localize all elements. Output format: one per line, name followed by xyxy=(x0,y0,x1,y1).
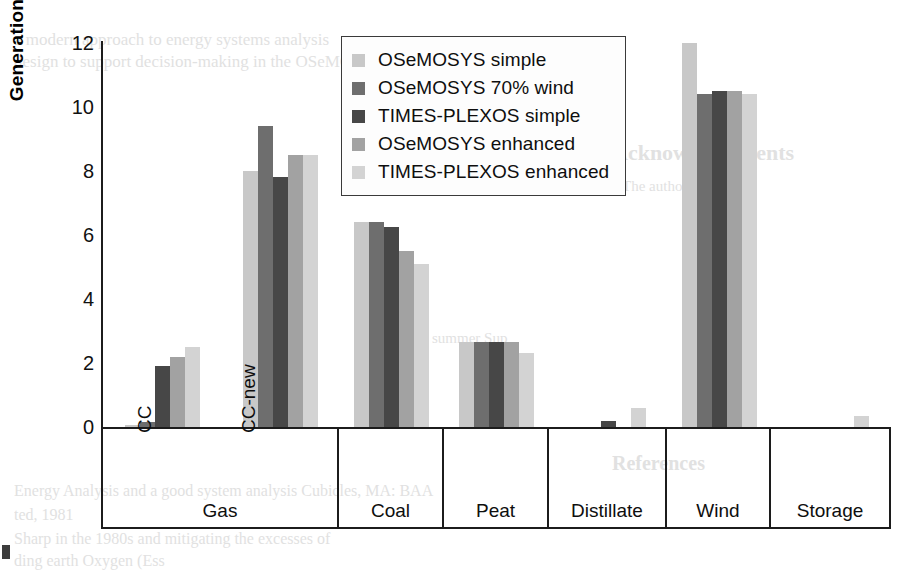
bar xyxy=(414,264,429,427)
y-tick-label: 10 xyxy=(48,97,94,117)
page-corner-mark xyxy=(2,545,10,559)
y-tick-label: 2 xyxy=(48,353,94,373)
x-group-label: Wind xyxy=(696,500,739,527)
x-group-label: Storage xyxy=(797,500,864,527)
bar-group xyxy=(771,43,891,427)
bar xyxy=(742,94,757,427)
y-axis-title: Generation (TWh) xyxy=(6,0,28,130)
x-group-label: Distillate xyxy=(571,500,643,527)
bar xyxy=(519,353,534,427)
y-tick-label: 4 xyxy=(48,289,94,309)
chart-legend: OSeMOSYS simpleOSeMOSYS 70% windTIMES-PL… xyxy=(341,36,626,196)
bar xyxy=(170,357,185,427)
bar xyxy=(601,421,616,427)
bar xyxy=(712,91,727,427)
bar xyxy=(504,342,519,427)
legend-swatch-icon xyxy=(352,54,365,67)
x-group-label: Peat xyxy=(476,500,515,527)
bar xyxy=(399,251,414,427)
legend-swatch-icon xyxy=(352,138,365,151)
bar xyxy=(369,222,384,427)
x-sublabel-cc-new: CC-new xyxy=(238,364,260,433)
bar xyxy=(631,408,646,427)
x-group-distillate: Distillate xyxy=(549,429,667,527)
y-tick-label: 6 xyxy=(48,225,94,245)
x-sublabel-cc: CC xyxy=(134,406,156,433)
x-axis-table: CC CC-new Gas Coal Peat Distillate Wind … xyxy=(101,429,891,529)
bar-group xyxy=(667,43,771,427)
bar-group xyxy=(103,43,221,427)
bar xyxy=(474,342,489,427)
y-tick-label: 0 xyxy=(48,417,94,437)
bar xyxy=(727,91,742,427)
bar xyxy=(697,94,712,427)
bar xyxy=(682,43,697,427)
y-tick-label: 8 xyxy=(48,161,94,181)
bar xyxy=(459,342,474,427)
legend-item: OSeMOSYS simple xyxy=(352,46,609,74)
x-group-wind: Wind xyxy=(667,429,771,527)
x-group-gas: CC CC-new Gas xyxy=(103,429,339,527)
legend-swatch-icon xyxy=(352,110,365,123)
legend-label: OSeMOSYS enhanced xyxy=(378,133,575,155)
bar xyxy=(273,177,288,427)
bar-chart: Generation (TWh) 12 10 8 6 4 2 0 OSeMOSY… xyxy=(0,0,900,578)
y-axis-ticks: 12 10 8 6 4 2 0 xyxy=(38,0,94,578)
x-group-label: Gas xyxy=(203,500,238,527)
bar xyxy=(354,222,369,427)
bar xyxy=(155,366,170,427)
x-group-coal: Coal xyxy=(339,429,444,527)
x-group-peat: Peat xyxy=(444,429,549,527)
legend-label: OSeMOSYS simple xyxy=(378,49,546,71)
x-group-storage: Storage xyxy=(771,429,889,527)
x-group-label: Coal xyxy=(371,500,410,527)
bar xyxy=(489,342,504,427)
legend-label: TIMES-PLEXOS enhanced xyxy=(378,161,609,183)
legend-label: TIMES-PLEXOS simple xyxy=(378,105,581,127)
legend-item: OSeMOSYS enhanced xyxy=(352,130,609,158)
legend-item: TIMES-PLEXOS enhanced xyxy=(352,158,609,186)
bar xyxy=(185,347,200,427)
bar xyxy=(854,416,869,427)
legend-item: TIMES-PLEXOS simple xyxy=(352,102,609,130)
bar xyxy=(288,155,303,427)
legend-swatch-icon xyxy=(352,82,365,95)
legend-label: OSeMOSYS 70% wind xyxy=(378,77,574,99)
y-tick-label: 12 xyxy=(48,33,94,53)
legend-item: OSeMOSYS 70% wind xyxy=(352,74,609,102)
bar xyxy=(303,155,318,427)
legend-swatch-icon xyxy=(352,166,365,179)
bar xyxy=(384,227,399,427)
